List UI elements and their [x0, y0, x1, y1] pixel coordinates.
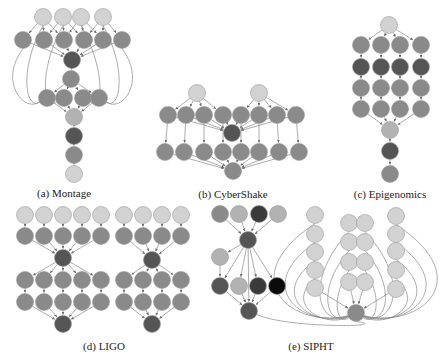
task-node	[116, 207, 133, 224]
task-node	[39, 90, 56, 107]
edge	[69, 242, 76, 250]
edge	[247, 100, 254, 108]
task-node	[341, 234, 358, 251]
task-node	[215, 144, 232, 161]
edge	[67, 87, 68, 89]
task-node	[251, 85, 268, 102]
edge	[225, 247, 244, 278]
task-node	[388, 243, 405, 260]
task-node	[212, 278, 229, 295]
task-node	[392, 59, 409, 76]
task-node	[55, 294, 72, 311]
task-node	[66, 166, 83, 183]
task-node	[382, 166, 399, 183]
task-node	[392, 37, 409, 54]
task-node	[55, 272, 72, 289]
task-node	[307, 280, 324, 297]
curved-edge	[104, 49, 132, 105]
task-node	[36, 207, 53, 224]
task-node	[74, 228, 91, 245]
edge	[393, 32, 395, 36]
task-node	[353, 101, 370, 118]
caption-montage: (a) Montage	[37, 187, 91, 199]
edge	[185, 123, 186, 142]
task-node	[36, 32, 53, 49]
task-node	[373, 37, 390, 54]
task-node	[173, 228, 190, 245]
task-node	[114, 32, 131, 49]
edge	[190, 101, 193, 107]
task-node	[17, 228, 34, 245]
task-node	[55, 9, 72, 26]
caption-ligo: (d) LIGO	[83, 340, 125, 352]
task-node	[392, 101, 409, 118]
edge	[146, 244, 149, 251]
edge	[77, 47, 80, 52]
edge	[252, 222, 256, 231]
task-node	[75, 90, 92, 107]
task-node	[55, 207, 72, 224]
task-node	[17, 272, 34, 289]
caption-sipht: (e) SIPHT	[288, 340, 334, 352]
task-node	[357, 234, 374, 251]
task-node	[269, 278, 286, 295]
task-node	[388, 262, 405, 279]
edge	[67, 48, 68, 51]
task-node	[341, 274, 358, 291]
edge	[147, 268, 149, 272]
ligo-graph	[17, 207, 190, 333]
task-node	[35, 9, 52, 26]
task-node	[135, 207, 152, 224]
task-node	[212, 249, 229, 266]
task-node	[225, 163, 242, 180]
task-node	[189, 85, 206, 102]
task-node	[66, 109, 83, 126]
task-node	[196, 107, 213, 124]
task-node	[215, 107, 232, 124]
edge	[156, 310, 159, 316]
task-node	[382, 122, 399, 139]
edge	[156, 268, 158, 272]
task-node	[251, 107, 268, 124]
task-node	[17, 294, 34, 311]
task-node	[250, 278, 267, 295]
edge	[166, 123, 168, 142]
edge	[50, 264, 57, 272]
task-node	[271, 144, 288, 161]
edge	[277, 123, 278, 142]
task-node	[116, 228, 133, 245]
task-node	[224, 125, 241, 142]
workflow-graphs-canvas	[0, 0, 444, 364]
task-node	[392, 80, 409, 97]
edge	[359, 290, 363, 304]
task-node	[251, 144, 268, 161]
task-node	[373, 80, 390, 97]
epigenomics-graph	[353, 17, 430, 183]
task-node	[56, 32, 73, 49]
task-node	[341, 254, 358, 271]
edge	[29, 23, 37, 32]
edge	[241, 248, 247, 276]
task-node	[176, 144, 193, 161]
montage-graph	[13, 9, 133, 183]
edge	[69, 264, 76, 272]
caption-epigenomics: (c) Epigenomics	[354, 188, 426, 200]
task-node	[353, 37, 370, 54]
edge	[248, 248, 249, 301]
task-node	[15, 32, 32, 49]
task-node	[95, 9, 112, 26]
task-node	[173, 294, 190, 311]
task-node	[241, 303, 258, 320]
task-node	[36, 294, 53, 311]
task-node	[270, 206, 287, 223]
edge	[156, 244, 159, 251]
task-node	[93, 228, 110, 245]
edge	[146, 310, 148, 315]
task-node	[55, 228, 72, 245]
task-node	[64, 52, 81, 69]
edge	[50, 308, 57, 316]
edge	[237, 160, 238, 162]
task-node	[178, 107, 195, 124]
task-node	[157, 144, 174, 161]
task-node	[357, 254, 374, 271]
